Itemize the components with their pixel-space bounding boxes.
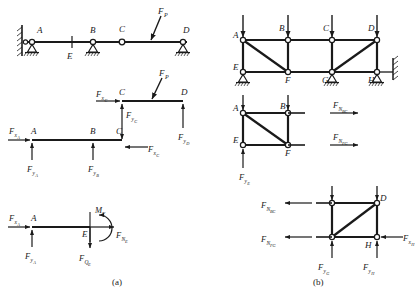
truss-node-D bbox=[374, 37, 379, 42]
truss-left-section: A B E F F N BC F N FG F y E bbox=[232, 95, 358, 186]
left-label-F: F bbox=[284, 148, 291, 158]
label-FyA-4: F y A bbox=[24, 251, 36, 265]
left-node-A bbox=[240, 110, 245, 115]
label-FxA-4: F x A bbox=[8, 213, 20, 227]
beam-overall-diagram: A E B C D F P bbox=[17, 6, 190, 61]
label-FP-2: F P bbox=[158, 68, 169, 80]
svg-text:C: C bbox=[134, 119, 137, 124]
truss-label-H: H bbox=[367, 75, 375, 85]
structural-mechanics-figure: A E B C D F P C D F P bbox=[0, 0, 415, 294]
label-FyD: F y D bbox=[177, 132, 190, 146]
left-node-E bbox=[240, 142, 245, 147]
svg-text:G: G bbox=[326, 271, 330, 276]
internal-hinge-C bbox=[119, 39, 125, 45]
svg-text:F: F bbox=[157, 6, 164, 16]
left-label-FNBC: F N BC bbox=[332, 100, 348, 114]
truss-node-B bbox=[285, 37, 290, 42]
svg-text:C: C bbox=[156, 153, 159, 158]
segment-CD-free-body: C D F P F x C F y C F y D bbox=[95, 68, 190, 146]
caption-a: (a) bbox=[112, 277, 122, 287]
svg-text:FG: FG bbox=[341, 141, 349, 146]
truss-label-E: E bbox=[232, 62, 239, 72]
left-label-E: E bbox=[232, 135, 239, 145]
label-B-3: B bbox=[90, 126, 96, 136]
label-FyA-3: F y A bbox=[26, 164, 38, 178]
right-label-FNFG: F N FG bbox=[260, 234, 277, 248]
right-label-FNBC: F N BC bbox=[260, 200, 276, 214]
right-label-FxH: F x H bbox=[402, 233, 415, 247]
svg-text:H: H bbox=[370, 271, 375, 276]
svg-text:A: A bbox=[34, 173, 38, 178]
label-FyB-3: F y B bbox=[87, 164, 99, 178]
svg-text:E: E bbox=[124, 239, 128, 244]
svg-text:A: A bbox=[16, 222, 20, 227]
truss-label-A: A bbox=[232, 30, 239, 40]
svg-text:E: E bbox=[246, 181, 250, 186]
truss-label-B: B bbox=[279, 23, 285, 33]
segment-ABC-free-body: A B C F x A F y A F y B F x C bbox=[8, 124, 159, 178]
left-label-B: B bbox=[280, 101, 286, 111]
label-C: C bbox=[119, 24, 126, 34]
truss-label-D: D bbox=[367, 23, 375, 33]
svg-text:BC: BC bbox=[342, 109, 348, 114]
label-FxA-3: F x A bbox=[8, 126, 20, 140]
moment-arc-ME bbox=[99, 215, 112, 241]
label-D-2: D bbox=[180, 87, 188, 97]
svg-text:P: P bbox=[163, 12, 168, 18]
label-FP: F P bbox=[157, 6, 168, 18]
svg-text:BC: BC bbox=[270, 209, 276, 214]
right-diagonal-GD bbox=[332, 203, 377, 237]
svg-text:B: B bbox=[96, 173, 99, 178]
label-FyC: F y C bbox=[125, 110, 137, 124]
svg-text:H: H bbox=[410, 242, 415, 247]
truss-node-C bbox=[329, 37, 334, 42]
load-arrow-FP-CD bbox=[152, 78, 162, 99]
label-FQE: F Q E bbox=[78, 253, 91, 267]
panel-a: A E B C D F P C D F P bbox=[8, 6, 190, 287]
load-arrow-FP bbox=[151, 16, 161, 40]
truss-support-E bbox=[235, 74, 250, 86]
right-label-FyH: F y H bbox=[362, 262, 375, 276]
svg-text:E: E bbox=[101, 211, 106, 217]
wall-support-A bbox=[17, 25, 28, 56]
svg-text:FG: FG bbox=[269, 243, 277, 248]
label-B: B bbox=[90, 25, 96, 35]
svg-text:F: F bbox=[158, 68, 165, 78]
truss-wall-link-H bbox=[379, 56, 398, 80]
svg-text:A: A bbox=[16, 135, 20, 140]
truss-node-A bbox=[240, 37, 245, 42]
label-A-4: A bbox=[30, 213, 37, 223]
label-D: D bbox=[182, 25, 190, 35]
segment-AE-free-body: A E F x A F y A M E F Q E F bbox=[8, 205, 128, 267]
label-A-3: A bbox=[30, 126, 37, 136]
truss-label-F: F bbox=[284, 75, 291, 85]
truss-diagonal-AF bbox=[243, 40, 288, 72]
right-label-FyG: F y G bbox=[317, 262, 330, 276]
panel-b: A B C D E F G H bbox=[232, 15, 415, 287]
svg-text:E: E bbox=[87, 262, 91, 267]
truss-label-G: G bbox=[322, 75, 329, 85]
truss-node-F bbox=[285, 69, 290, 74]
left-label-FNFG: F N FG bbox=[332, 132, 349, 146]
label-FxC-3: F x C bbox=[147, 144, 159, 158]
support-B bbox=[85, 44, 100, 56]
svg-text:C: C bbox=[105, 98, 108, 103]
left-label-FyE: F y E bbox=[238, 172, 250, 186]
truss-right-section: D H F N BC F N FG F y G F y H bbox=[260, 186, 415, 276]
right-label-D: D bbox=[379, 193, 387, 203]
left-diagonal-AF bbox=[243, 113, 288, 145]
truss-overall-diagram: A B C D E F G H bbox=[232, 15, 398, 86]
left-label-A: A bbox=[232, 103, 239, 113]
label-FNE: F N E bbox=[115, 230, 128, 244]
truss-diagonal-GD bbox=[332, 40, 377, 72]
support-D bbox=[175, 44, 190, 56]
support-A bbox=[24, 44, 39, 56]
label-E: E bbox=[66, 51, 73, 61]
label-E-4: E bbox=[81, 229, 88, 239]
truss-label-C: C bbox=[323, 23, 330, 33]
label-C-2: C bbox=[119, 87, 126, 97]
svg-text:P: P bbox=[164, 74, 169, 80]
label-C-3: C bbox=[116, 126, 123, 136]
right-node-D bbox=[374, 200, 379, 205]
label-A: A bbox=[36, 25, 43, 35]
